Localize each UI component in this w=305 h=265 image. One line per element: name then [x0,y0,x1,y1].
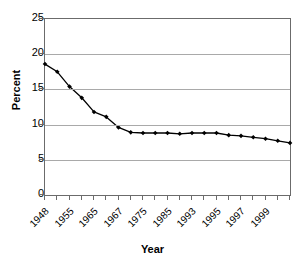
x-axis-tick-label: 1997 [224,206,247,229]
data-point-marker [275,138,280,143]
x-axis-tick-label: 1955 [53,206,76,229]
data-point-marker [263,136,268,141]
data-point-marker [202,131,207,136]
x-axis-tick-label: 1993 [175,206,198,229]
gridline [45,89,290,90]
data-point-marker [190,131,195,136]
data-point-marker [141,131,146,136]
data-point-marker [214,131,219,136]
data-point-marker [251,135,256,140]
x-axis-tick-labels: 1948195519651967197519851993199519971999 [44,200,291,240]
data-point-marker [239,134,244,139]
chart-figure: 0510152025 Percent 194819551965196719751… [0,0,305,265]
x-axis-tick-label: 1995 [200,206,223,229]
x-axis-title: Year [0,243,305,255]
x-axis-tick-label: 1967 [102,206,125,229]
x-axis-tick-label: 1999 [249,206,272,229]
data-point-marker [288,141,293,146]
plot-area [44,18,291,196]
y-axis: 0510152025 [0,0,44,196]
gridline [45,54,290,55]
data-point-marker [226,133,231,138]
x-axis-tick-label: 1985 [151,206,174,229]
data-point-marker [128,130,133,135]
gridline [45,125,290,126]
gridline [45,160,290,161]
y-axis-title: Percent [10,50,22,130]
data-point-marker [177,131,182,136]
x-axis-tick-label: 1948 [28,206,51,229]
series-line-percent [45,19,290,195]
data-point-marker [153,131,158,136]
x-axis-tick-label: 1975 [126,206,149,229]
data-point-marker [165,131,170,136]
x-axis-tick-label: 1965 [77,206,100,229]
